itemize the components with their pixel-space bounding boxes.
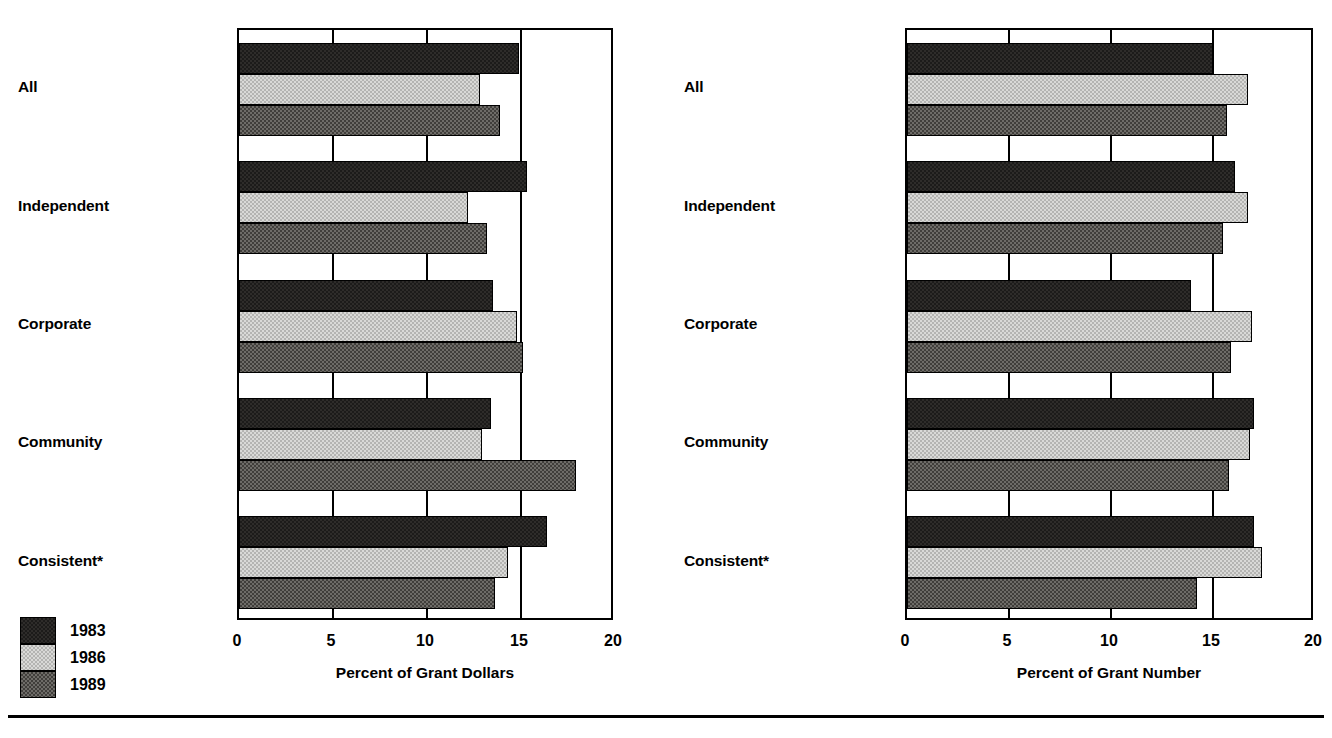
bar-1986-corporate	[907, 311, 1252, 342]
bar-1986-all	[239, 74, 480, 105]
bar-1986-independent	[239, 192, 468, 223]
bar-1986-consistent	[907, 547, 1262, 578]
x-tick-label: 0	[901, 632, 910, 650]
x-tick-label: 0	[233, 632, 242, 650]
category-label-community: Community	[18, 433, 102, 451]
legend-label-1983: 1983	[70, 622, 106, 640]
bar-1989-community	[907, 460, 1229, 491]
legend-label-1986: 1986	[70, 649, 106, 667]
bar-1983-consistent	[239, 516, 547, 547]
category-label-consistent: Consistent*	[18, 552, 103, 570]
bar-1986-community	[907, 429, 1250, 460]
bar-1983-independent	[907, 161, 1235, 192]
bar-1989-independent	[239, 223, 487, 254]
x-tick-label: 10	[416, 632, 434, 650]
legend-item: 1986	[20, 644, 180, 671]
bar-1989-consistent	[907, 578, 1197, 609]
x-tick-label: 20	[1304, 632, 1322, 650]
category-label-all: All	[684, 78, 704, 96]
bar-1986-community	[239, 429, 482, 460]
category-label-community: Community	[684, 433, 768, 451]
bar-1983-independent	[239, 161, 527, 192]
bar-1983-community	[239, 398, 491, 429]
bar-1986-all	[907, 74, 1248, 105]
x-axis-title: Percent of Grant Number	[1017, 664, 1201, 682]
bar-1986-independent	[907, 192, 1248, 223]
bar-1989-corporate	[239, 342, 523, 373]
x-tick-label: 10	[1100, 632, 1118, 650]
bar-1989-consistent	[239, 578, 495, 609]
legend-swatch-1983-icon	[20, 617, 56, 644]
x-axis-title: Percent of Grant Dollars	[336, 664, 514, 682]
category-label-consistent: Consistent*	[684, 552, 769, 570]
category-axis-labels-left: AllIndependentCorporateCommunityConsiste…	[18, 28, 218, 620]
category-label-corporate: Corporate	[18, 315, 91, 333]
bar-1983-all	[239, 43, 519, 74]
plot-area-grant-dollars	[237, 28, 613, 620]
bar-1989-independent	[907, 223, 1223, 254]
x-tick-label: 15	[1202, 632, 1220, 650]
legend-swatch-1989-icon	[20, 671, 56, 698]
bar-1989-community	[239, 460, 576, 491]
footer-divider	[8, 715, 1324, 718]
category-label-corporate: Corporate	[684, 315, 757, 333]
chart-panel-grant-number: AllIndependentCorporateCommunityConsiste…	[666, 0, 1332, 738]
bar-1989-corporate	[907, 342, 1231, 373]
bar-1983-corporate	[907, 280, 1191, 311]
x-tick-label: 15	[510, 632, 528, 650]
x-tick-label: 5	[1003, 632, 1012, 650]
legend-swatch-1986-icon	[20, 644, 56, 671]
bar-1983-corporate	[239, 280, 493, 311]
x-tick-label: 20	[604, 632, 622, 650]
category-label-independent: Independent	[18, 197, 109, 215]
category-label-all: All	[18, 78, 38, 96]
bar-1989-all	[907, 105, 1227, 136]
category-axis-labels-right: AllIndependentCorporateCommunityConsiste…	[684, 28, 884, 620]
bar-1986-corporate	[239, 311, 517, 342]
bar-1983-community	[907, 398, 1254, 429]
bar-1983-all	[907, 43, 1213, 74]
legend-item: 1983	[20, 617, 180, 644]
bar-1986-consistent	[239, 547, 508, 578]
bar-1983-consistent	[907, 516, 1254, 547]
plot-area-grant-number	[905, 28, 1313, 620]
category-label-independent: Independent	[684, 197, 775, 215]
chart-legend: 1983 1986 1989	[20, 617, 180, 698]
legend-label-1989: 1989	[70, 676, 106, 694]
bar-1989-all	[239, 105, 500, 136]
legend-item: 1989	[20, 671, 180, 698]
x-tick-label: 5	[327, 632, 336, 650]
